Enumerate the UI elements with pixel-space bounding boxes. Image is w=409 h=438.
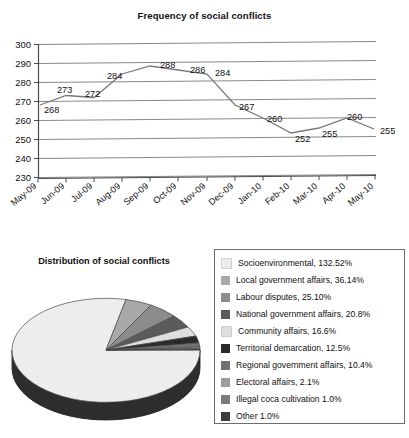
gridline-300 bbox=[38, 42, 376, 45]
legend-swatch-icon bbox=[221, 276, 230, 285]
legend-item[interactable]: Regional government affairs, 10.4% bbox=[221, 357, 404, 374]
y-tick-label: 230 bbox=[15, 172, 31, 183]
legend-swatch-icon bbox=[221, 310, 230, 319]
legend-label: Electoral affairs, 2.1% bbox=[236, 378, 319, 387]
legend-swatch-icon bbox=[221, 344, 230, 353]
x-tick-label: Aug-09 bbox=[94, 181, 123, 207]
gridline-260 bbox=[38, 118, 376, 121]
legend-item[interactable]: Territorial demarcation, 12.5% bbox=[221, 340, 404, 357]
legend-swatch-icon bbox=[221, 361, 230, 370]
data-label: 260 bbox=[267, 114, 282, 124]
pie-chart-svg bbox=[6, 268, 206, 434]
data-label: 284 bbox=[215, 68, 230, 78]
x-tick-label: Dec-09 bbox=[207, 181, 236, 207]
y-tick-label: 240 bbox=[15, 153, 31, 164]
legend-item[interactable]: Local government affairs, 36.14% bbox=[221, 272, 404, 289]
x-tick-label: Apr-10 bbox=[320, 181, 347, 206]
legend-swatch-icon bbox=[221, 293, 230, 302]
gridline-240 bbox=[38, 156, 376, 159]
x-tick-label: Feb-10 bbox=[263, 181, 291, 207]
line-chart: Frequency of social conflicts bbox=[0, 0, 409, 222]
legend-label: Illegal coca cultivation 1.0% bbox=[236, 395, 342, 404]
data-label: 268 bbox=[44, 105, 59, 115]
pie-slices bbox=[12, 298, 200, 402]
x-tick-label: Jan-10 bbox=[236, 181, 264, 206]
legend-item[interactable]: Other 1.0% bbox=[221, 408, 404, 425]
gridline-280 bbox=[38, 80, 376, 83]
x-tick-label: Mar-10 bbox=[291, 181, 319, 207]
data-label: 272 bbox=[85, 89, 100, 99]
legend-item[interactable]: Electoral affairs, 2.1% bbox=[221, 374, 404, 391]
legend-label: Community affairs, 16.6% bbox=[238, 327, 336, 336]
legend-label: Labour disputes, 25.10% bbox=[236, 293, 331, 302]
legend-label: Regional government affairs, 10.4% bbox=[236, 361, 372, 370]
y-tick-label: 250 bbox=[15, 134, 31, 145]
data-label: 286 bbox=[190, 65, 205, 75]
y-tick-label: 290 bbox=[15, 58, 31, 69]
pie-chart: Distribution of social conflicts bbox=[0, 252, 210, 438]
x-tick-label: May-09 bbox=[9, 181, 38, 208]
legend-label: National government affairs, 20.8% bbox=[236, 310, 370, 319]
pie-legend: Socioenvironmental, 132.52% Local govern… bbox=[214, 249, 405, 424]
legend-label: Socioenvironmental, 132.52% bbox=[238, 259, 352, 268]
x-tick-label: Sep-09 bbox=[122, 181, 151, 207]
legend-item[interactable]: Community affairs, 16.6% bbox=[221, 323, 404, 340]
x-tick-label: Oct-09 bbox=[151, 181, 178, 206]
legend-item[interactable]: Illegal coca cultivation 1.0% bbox=[221, 391, 404, 408]
y-tick-label: 270 bbox=[15, 96, 31, 107]
legend-swatch-icon bbox=[221, 395, 230, 404]
legend-swatch-icon bbox=[221, 378, 230, 387]
y-tick-labels: 300 290 280 270 260 250 240 230 bbox=[15, 39, 31, 183]
y-tick-label: 280 bbox=[15, 77, 31, 88]
legend-swatch-icon bbox=[221, 326, 232, 337]
y-tick-label: 260 bbox=[15, 115, 31, 126]
gridlines bbox=[38, 42, 376, 178]
data-label: 255 bbox=[380, 126, 395, 136]
x-tick-label: Nov-09 bbox=[179, 181, 208, 207]
line-chart-svg: 300 290 280 270 260 250 240 230 268 273 … bbox=[0, 0, 409, 222]
legend-label: Other 1.0% bbox=[236, 412, 279, 421]
legend-swatch-icon bbox=[221, 258, 232, 269]
data-label: 255 bbox=[322, 129, 337, 139]
data-label: 284 bbox=[107, 71, 122, 81]
y-tick-marks bbox=[34, 45, 38, 178]
data-label: 267 bbox=[239, 102, 254, 112]
x-tick-label: May-10 bbox=[346, 181, 375, 208]
chart-page: Frequency of social conflicts bbox=[0, 0, 409, 438]
x-tick-label: Jun-09 bbox=[39, 181, 67, 206]
legend-swatch-icon bbox=[221, 412, 230, 421]
data-label: 288 bbox=[160, 60, 175, 70]
legend-item[interactable]: Socioenvironmental, 132.52% bbox=[221, 255, 404, 272]
data-label: 273 bbox=[57, 85, 72, 95]
pie-chart-title: Distribution of social conflicts bbox=[0, 256, 208, 266]
x-tick-label: Jul-09 bbox=[69, 181, 94, 204]
gridline-290 bbox=[38, 61, 376, 64]
data-labels: 268 273 272 284 288 286 284 267 260 252 … bbox=[44, 60, 395, 144]
x-tick-labels: May-09 Jun-09 Jul-09 Aug-09 Sep-09 Oct-0… bbox=[9, 181, 375, 208]
legend-item[interactable]: National government affairs, 20.8% bbox=[221, 306, 404, 323]
data-label: 252 bbox=[295, 134, 310, 144]
y-tick-label: 300 bbox=[15, 39, 31, 50]
data-label: 260 bbox=[347, 112, 362, 122]
legend-label: Territorial demarcation, 12.5% bbox=[236, 344, 350, 353]
legend-item[interactable]: Labour disputes, 25.10% bbox=[221, 289, 404, 306]
legend-label: Local government affairs, 36.14% bbox=[236, 276, 364, 285]
